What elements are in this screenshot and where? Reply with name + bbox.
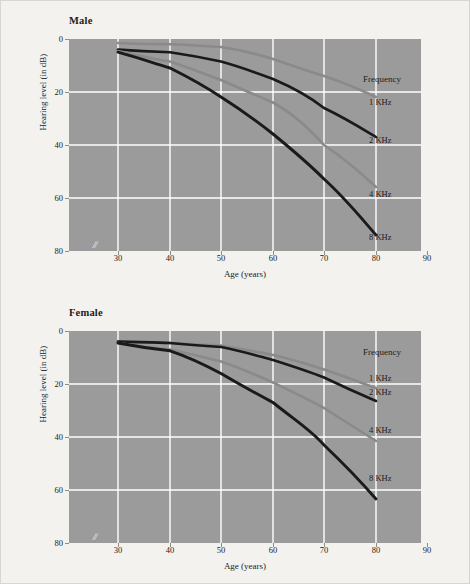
legend-title-female: Frequency: [363, 347, 401, 357]
y-tick-male-60: 60: [37, 193, 63, 203]
series-line-female-4khz: [118, 343, 376, 441]
x-tickmark-male-80: [376, 251, 377, 255]
panel-title-female: Female: [69, 307, 103, 318]
plot-svg-female: [69, 331, 421, 543]
legend-label-female-1khz: 1 KHz: [369, 373, 391, 383]
x-tickmark-female-50: [221, 543, 222, 547]
x-tickmark-female-60: [273, 543, 274, 547]
panel-title-male: Male: [69, 15, 93, 26]
legend-label-female-2khz: 2 KHz: [369, 387, 391, 397]
x-tickmark-male-60: [273, 251, 274, 255]
y-tickmark-female-80: [65, 543, 69, 544]
y-tick-male-40: 40: [37, 140, 63, 150]
gridlines-male: [69, 39, 421, 251]
x-tickmark-male-90: [427, 251, 428, 255]
series-lines-female: [118, 342, 376, 499]
x-tickmark-female-70: [324, 543, 325, 547]
plot-svg-male: [69, 39, 421, 251]
y-tick-female-60: 60: [37, 485, 63, 495]
legend-label-female-4khz: 4 KHz: [369, 425, 391, 435]
y-tick-male-0: 0: [37, 34, 63, 44]
legend-label-male-4khz: 4 KHz: [369, 189, 391, 199]
x-tickmark-female-40: [170, 543, 171, 547]
y-tick-female-20: 20: [37, 379, 63, 389]
legend-title-male: Frequency: [363, 74, 401, 84]
y-tick-female-40: 40: [37, 432, 63, 442]
y-tick-male-20: 20: [37, 87, 63, 97]
x-axis-title-male: Age (years): [69, 269, 421, 279]
x-tickmark-male-70: [324, 251, 325, 255]
y-tickmark-male-80: [65, 251, 69, 252]
x-axis-title-female: Age (years): [69, 561, 421, 571]
legend-label-male-8khz: 8 KHz: [369, 232, 391, 242]
plot-area-female: [69, 331, 421, 543]
y-tick-male-80: 80: [37, 246, 63, 256]
x-tickmark-female-80: [376, 543, 377, 547]
series-lines-male: [118, 43, 376, 235]
legend-label-male-2khz: 2 KHz: [369, 135, 391, 145]
chart-panel-female: Female Hearing level (in dB) Age (years)…: [1, 293, 470, 584]
chart-panel-male: Male Hearing level (in dB) Age (years) 0…: [1, 1, 470, 293]
x-tickmark-male-30: [118, 251, 119, 255]
x-tickmark-male-40: [170, 251, 171, 255]
x-tickmark-female-90: [427, 543, 428, 547]
figure-page: Male Hearing level (in dB) Age (years) 0…: [0, 0, 470, 584]
y-tick-female-0: 0: [37, 326, 63, 336]
series-line-male-4khz: [118, 51, 376, 187]
series-line-female-8khz: [118, 343, 376, 499]
y-tick-female-80: 80: [37, 538, 63, 548]
legend-label-male-1khz: 1 KHz: [369, 97, 391, 107]
legend-label-female-8khz: 8 KHz: [369, 473, 391, 483]
x-tickmark-female-30: [118, 543, 119, 547]
x-tickmark-male-50: [221, 251, 222, 255]
plot-area-male: [69, 39, 421, 251]
